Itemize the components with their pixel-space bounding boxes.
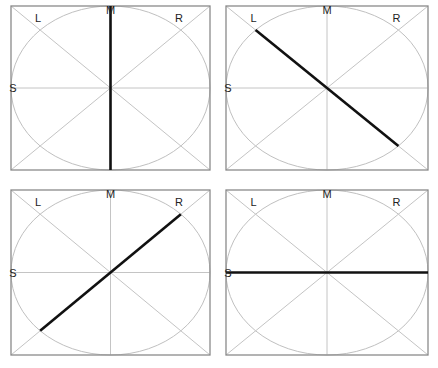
label-s: S [9, 82, 16, 94]
panel-top-right: MLRS [226, 6, 428, 170]
label-m: M [322, 4, 331, 16]
panel-bottom-right: MLRS [226, 190, 428, 355]
label-l: L [35, 196, 41, 208]
label-m: M [106, 4, 115, 16]
panel-bottom-left: MLRS [11, 190, 210, 355]
label-s: S [224, 267, 231, 279]
label-r: R [392, 196, 400, 208]
label-m: M [106, 188, 115, 200]
label-l: L [35, 12, 41, 24]
label-l: L [251, 196, 257, 208]
label-l: L [251, 12, 257, 24]
label-s: S [9, 267, 16, 279]
label-s: S [224, 82, 231, 94]
panel-top-left: MLRS [11, 6, 210, 170]
label-r: R [175, 12, 183, 24]
label-m: M [322, 188, 331, 200]
label-r: R [175, 196, 183, 208]
label-r: R [392, 12, 400, 24]
